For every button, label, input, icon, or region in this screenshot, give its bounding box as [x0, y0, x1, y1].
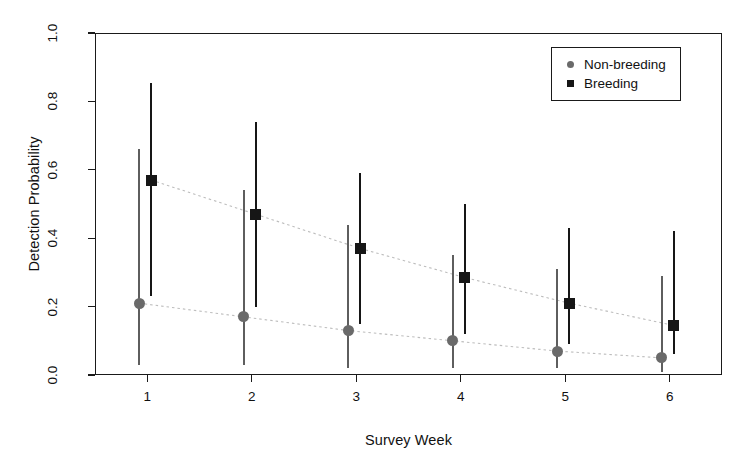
- x-tick-label: 6: [657, 389, 683, 404]
- x-tick-label: 3: [343, 389, 369, 404]
- x-tick-label: 2: [239, 389, 265, 404]
- x-tick-mark: [251, 375, 252, 382]
- x-tick-mark: [356, 375, 357, 382]
- legend-item-breeding: Breeding: [561, 74, 666, 93]
- y-tick-label: 0.0: [45, 358, 61, 392]
- x-tick-mark: [669, 375, 670, 382]
- y-tick-mark: [88, 32, 95, 33]
- x-tick-mark: [460, 375, 461, 382]
- x-tick-mark: [565, 375, 566, 382]
- y-tick-mark: [88, 169, 95, 170]
- detection-probability-chart: Detection Probability Survey Week 0.00.2…: [0, 0, 748, 473]
- y-tick-mark: [88, 306, 95, 307]
- circle-marker-icon: [561, 61, 579, 68]
- y-axis-label: Detection Probability: [22, 33, 46, 375]
- y-tick-mark: [88, 374, 95, 375]
- y-tick-label: 0.4: [45, 221, 61, 255]
- y-tick-label: 0.8: [45, 84, 61, 118]
- legend-item-non-breeding: Non-breeding: [561, 55, 666, 74]
- x-tick-label: 1: [134, 389, 160, 404]
- x-tick-label: 4: [448, 389, 474, 404]
- x-axis-label: Survey Week: [95, 432, 722, 448]
- y-tick-mark: [88, 101, 95, 102]
- y-tick-label: 0.2: [45, 290, 61, 324]
- legend: Non-breeding Breeding: [551, 47, 681, 101]
- y-tick-mark: [88, 238, 95, 239]
- y-tick-label: 0.6: [45, 153, 61, 187]
- x-tick-label: 5: [552, 389, 578, 404]
- x-tick-mark: [147, 375, 148, 382]
- square-marker-icon: [561, 80, 579, 87]
- y-tick-label: 1.0: [45, 16, 61, 50]
- legend-label-non-breeding: Non-breeding: [584, 57, 666, 72]
- legend-label-breeding: Breeding: [584, 76, 638, 91]
